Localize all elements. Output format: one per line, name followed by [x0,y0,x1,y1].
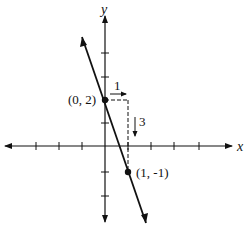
point-y-intercept [102,97,108,103]
y-axis-label: y [99,2,108,17]
arrowhead-icon [80,37,87,47]
point-label-b: (1, -1) [136,165,169,180]
point-second [125,169,131,175]
coordinate-plane: x y 1 3 (0, 2) (1, -1) [0,0,246,228]
x-axis-label: x [236,139,244,154]
run-label: 1 [114,78,121,93]
y-axis [101,16,109,222]
arrowhead-icon [141,213,148,223]
rise-label: 3 [139,114,146,129]
graph-line [82,37,146,223]
point-label-a: (0, 2) [68,92,96,107]
